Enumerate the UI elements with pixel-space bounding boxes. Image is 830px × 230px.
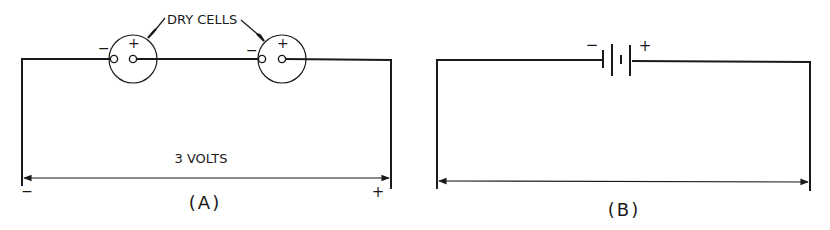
callout-arrowhead-icon [257,34,264,41]
negative-terminal-icon [258,55,265,62]
positive-terminal-icon [278,55,285,62]
battery-circuit-wires [437,59,810,191]
left-polarity-label: − [21,183,33,199]
circuit-diagrams: − + − + DRY CELLS 3 VOLTS − + (A) [0,0,830,230]
cell-1-neg-label: − [98,40,110,56]
callout-arrowhead-icon [148,29,156,38]
voltage-dimension-arrow [439,181,808,182]
series-circuit-wires [22,58,391,189]
battery-symbol-icon [603,44,630,76]
figure-b: − + (B) [437,36,810,220]
positive-terminal-icon [129,55,136,62]
dry-cells-callout-label: DRY CELLS [167,12,237,27]
figure-a: − + − + DRY CELLS 3 VOLTS − + (A) [21,12,391,213]
voltage-label: 3 VOLTS [175,151,228,166]
cell-1-pos-label: + [128,35,140,51]
figure-a-caption: (A) [189,192,221,213]
right-polarity-label: + [372,183,385,201]
battery-pos-label: + [639,37,652,55]
cell-2-neg-label: − [246,42,258,58]
negative-terminal-icon [110,55,117,62]
battery-neg-label: − [586,36,599,54]
figure-b-caption: (B) [608,199,640,220]
cell-2-pos-label: + [277,35,289,51]
